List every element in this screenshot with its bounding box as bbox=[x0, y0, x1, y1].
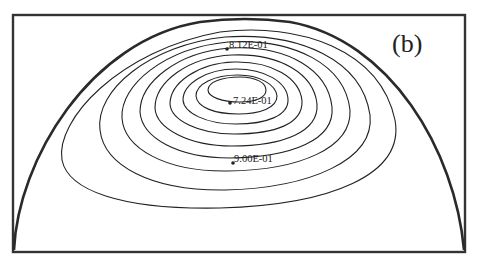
contour-lines bbox=[61, 30, 395, 208]
contour-label: 7.24E-01 bbox=[233, 95, 272, 106]
contour-label: 9.00E-01 bbox=[234, 153, 273, 164]
panel-label: (b) bbox=[392, 29, 422, 58]
label-marker bbox=[228, 101, 232, 105]
contour-label: 8.12E-01 bbox=[229, 39, 268, 50]
contour-plot: 8.12E-01 7.24E-01 9.00E-01 (b) bbox=[0, 0, 480, 261]
